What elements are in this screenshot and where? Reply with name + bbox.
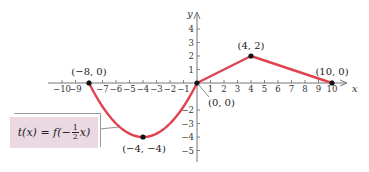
function-label-suffix: x) [80,126,91,139]
key-point [86,80,91,85]
point-label: (10, 0) [315,66,348,77]
x-tick-label: 8 [302,84,307,94]
x-tick-label: 4 [248,84,253,94]
x-tick-label: 5 [262,84,267,94]
x-tick-label: 2 [221,84,226,94]
y-tick-label: −5 [181,146,194,156]
fraction-denominator: 2 [73,133,78,141]
x-tick-label: 1 [208,84,213,94]
x-tick-label: −6 [110,84,123,94]
point-label: (−8, 0) [71,66,106,77]
point-label: (−4, −4) [122,143,166,154]
y-tick-label: 1 [189,65,194,75]
x-tick-label: −1 [177,84,190,94]
x-tick-label: 6 [275,84,280,94]
key-point [329,80,334,85]
x-tick-label: 3 [235,84,240,94]
x-tick-label: −3 [150,84,163,94]
fraction: 1 2 [72,124,79,141]
x-axis-label: x [352,83,358,94]
function-label-prefix: t(x) = f(− [18,126,71,139]
function-label-box: t(x) = f(− 1 2 x) [10,117,98,148]
point-label: (4, 2) [238,40,265,51]
y-tick-label: 4 [189,24,194,34]
x-tick-label: −4 [137,84,150,94]
y-tick-label: 3 [189,38,194,48]
x-tick-label: −9 [69,84,82,94]
key-point [248,53,253,58]
x-tick-label: −7 [96,84,109,94]
y-axis-label: y [186,8,193,19]
y-tick-label: 2 [189,51,194,61]
y-tick-label: −3 [181,119,194,129]
key-point [140,134,145,139]
point-label: (0, 0) [208,97,235,108]
x-tick-label: −2 [164,84,177,94]
x-tick-label: 7 [289,84,294,94]
x-tick-label: 9 [316,84,321,94]
y-tick-label: −4 [181,132,194,142]
point-labels: (−8, 0)(−4, −4)(0, 0)(4, 2)(10, 0) [71,40,348,154]
function-label-leader-line [100,127,119,129]
x-tick-label: −5 [123,84,136,94]
